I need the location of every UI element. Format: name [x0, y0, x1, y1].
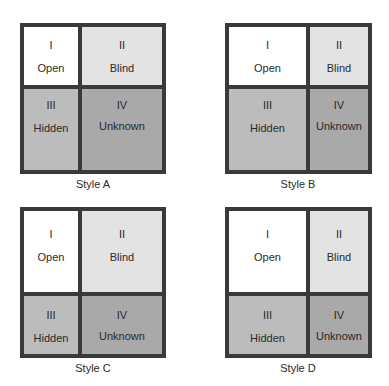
quadrant-hidden: III Hidden	[24, 296, 78, 354]
quadrant-numeral: I	[24, 228, 78, 240]
quadrant-open: I Open	[229, 211, 306, 292]
quadrant-numeral: II	[310, 39, 368, 51]
quadrant-label: Unknown	[310, 330, 368, 342]
quadrant-numeral: II	[310, 228, 368, 240]
quadrant-numeral: III	[24, 309, 78, 321]
quadrant-label: Unknown	[310, 120, 368, 132]
quadrant-numeral: II	[82, 39, 162, 51]
quadrant-open: I Open	[24, 211, 78, 292]
quadrant-numeral: I	[24, 39, 78, 51]
quadrant-hidden: III Hidden	[229, 89, 306, 170]
quadrant-unknown: IV Unknown	[310, 296, 368, 354]
diagram-style-b: I Open II Blind III Hidden IV Unknown	[225, 23, 372, 174]
quadrant-label: Hidden	[24, 122, 78, 134]
quadrant-open: I Open	[24, 27, 78, 85]
caption-style-c: Style C	[20, 362, 166, 374]
quadrant-label: Open	[229, 62, 306, 74]
quadrant-label: Blind	[310, 251, 368, 263]
quadrant-numeral: IV	[82, 309, 162, 321]
quadrant-numeral: III	[229, 99, 306, 111]
quadrant-blind: II Blind	[82, 211, 162, 292]
quadrant-unknown: IV Unknown	[82, 89, 162, 170]
quadrant-hidden: III Hidden	[24, 89, 78, 170]
quadrant-label: Open	[24, 62, 78, 74]
diagram-style-c: I Open II Blind III Hidden IV Unknown	[20, 207, 166, 358]
caption-style-a: Style A	[20, 178, 166, 190]
quadrant-numeral: II	[82, 228, 162, 240]
quadrant-numeral: IV	[310, 99, 368, 111]
diagram-style-a: I Open II Blind III Hidden IV Unknown	[20, 23, 166, 174]
quadrant-label: Blind	[82, 251, 162, 263]
quadrant-blind: II Blind	[310, 211, 368, 292]
quadrant-label: Hidden	[229, 332, 306, 344]
quadrant-numeral: I	[229, 228, 306, 240]
quadrant-label: Blind	[82, 62, 162, 74]
quadrant-label: Hidden	[229, 122, 306, 134]
caption-style-b: Style B	[225, 178, 371, 190]
quadrant-unknown: IV Unknown	[82, 296, 162, 354]
quadrant-blind: II Blind	[310, 27, 368, 85]
quadrant-numeral: IV	[82, 99, 162, 111]
quadrant-label: Unknown	[82, 330, 162, 342]
quadrant-blind: II Blind	[82, 27, 162, 85]
quadrant-label: Open	[24, 251, 78, 263]
quadrant-label: Blind	[310, 62, 368, 74]
quadrant-unknown: IV Unknown	[310, 89, 368, 170]
quadrant-numeral: IV	[310, 309, 368, 321]
quadrant-label: Open	[229, 251, 306, 263]
quadrant-numeral: III	[229, 309, 306, 321]
quadrant-numeral: I	[229, 39, 306, 51]
quadrant-hidden: III Hidden	[229, 296, 306, 354]
quadrant-label: Hidden	[24, 332, 78, 344]
diagram-style-d: I Open II Blind III Hidden IV Unknown	[225, 207, 372, 358]
caption-style-d: Style D	[225, 362, 371, 374]
quadrant-numeral: III	[24, 99, 78, 111]
quadrant-open: I Open	[229, 27, 306, 85]
quadrant-label: Unknown	[82, 120, 162, 132]
